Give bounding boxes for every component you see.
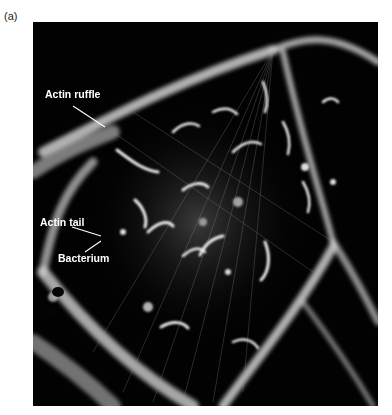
label-bacterium: Bacterium xyxy=(58,252,109,264)
label-actin-ruffle: Actin ruffle xyxy=(45,88,100,100)
panel-label: (a) xyxy=(4,10,17,22)
micrograph-structures xyxy=(33,22,378,406)
fluorescence-micrograph: Actin ruffle Actin tail Bacterium xyxy=(33,22,378,406)
label-actin-tail: Actin tail xyxy=(40,216,84,228)
